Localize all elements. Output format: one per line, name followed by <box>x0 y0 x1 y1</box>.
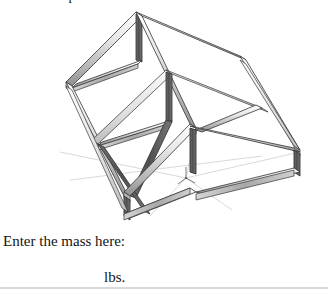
sill-long-right <box>240 60 300 150</box>
rafter-rear-right <box>136 12 246 60</box>
mid-post <box>166 72 172 122</box>
clipped-heading-text: weldment part. <box>8 0 95 3</box>
weldment-isometric-figure <box>0 4 328 236</box>
brace-upper-right <box>196 105 262 132</box>
sill-long-left <box>66 86 128 212</box>
mass-units-label: lbs. <box>104 267 125 287</box>
ridge-post-front <box>190 128 196 174</box>
scanned-page: weldment part. <box>0 0 328 289</box>
mass-prompt-label: Enter the mass here: <box>3 231 125 251</box>
longitudinal-top-rails <box>66 12 300 200</box>
